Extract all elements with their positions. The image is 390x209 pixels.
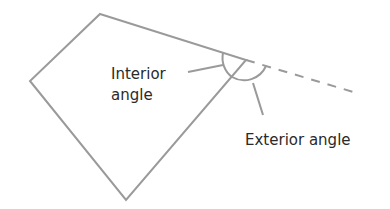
quadrilateral-shape xyxy=(30,14,246,200)
extended-side-dashed-line xyxy=(246,60,360,94)
interior-leader-line xyxy=(188,65,223,72)
polygon-angle-diagram: Interior angle Exterior angle xyxy=(0,0,390,209)
exterior-angle-arc xyxy=(232,66,266,80)
interior-angle-label-line2: angle xyxy=(111,86,153,104)
exterior-angle-label: Exterior angle xyxy=(245,131,351,149)
exterior-leader-line xyxy=(253,83,263,115)
interior-angle-label-line1: Interior xyxy=(111,65,167,83)
interior-angle-arc xyxy=(222,53,232,77)
